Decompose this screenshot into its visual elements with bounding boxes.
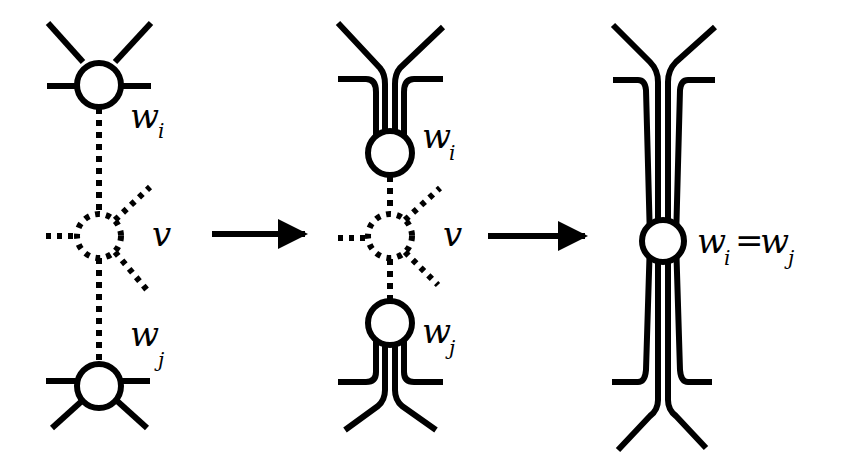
node-w-j (46, 364, 150, 428)
node-w-i (368, 131, 412, 175)
contraction-diagram: w i v w j w i v w j (0, 0, 848, 455)
node-merged (642, 220, 684, 262)
label-w-i-sub: i (724, 246, 730, 270)
node-w-i (47, 23, 151, 107)
label-w-i: w (697, 221, 726, 261)
label-v: v (152, 214, 171, 254)
edge-bundle-bottom (338, 341, 443, 430)
label-w-i: w (130, 96, 159, 136)
label-w-j: w (422, 311, 451, 351)
label-w-i-sub: i (449, 141, 455, 165)
label-w-j: w (130, 314, 159, 354)
label-w-i-sub: i (158, 119, 164, 143)
label-v: v (443, 214, 462, 254)
label-w-j: w (760, 221, 789, 261)
panel-2 (338, 23, 443, 430)
label-w-i: w (422, 116, 451, 156)
panel-1 (46, 23, 151, 428)
node-w-j (368, 301, 412, 345)
